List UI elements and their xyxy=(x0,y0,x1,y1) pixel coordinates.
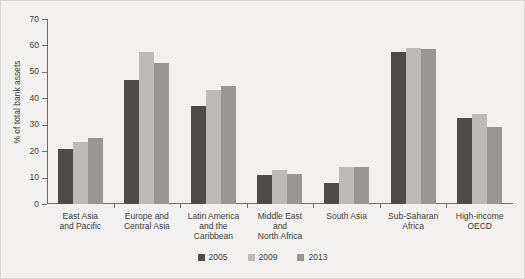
x-axis-category-label-line: and Pacific xyxy=(42,221,118,231)
x-axis-category-label-line: Sub-Saharan xyxy=(375,211,451,221)
plot-area xyxy=(47,19,513,204)
bar-group xyxy=(47,19,114,204)
x-axis-category-label-line: Middle East xyxy=(242,211,318,221)
legend-label: 2013 xyxy=(308,253,327,262)
bar-2005-latin-america xyxy=(191,106,206,204)
bar-group-bars xyxy=(247,19,314,204)
bar-2009-high-income xyxy=(472,114,487,204)
y-axis-tick-label: 50 xyxy=(11,67,39,76)
bar-2013-south-asia xyxy=(354,167,369,204)
x-axis-category-label-line: East Asia xyxy=(42,211,118,221)
y-axis-tick-label: 30 xyxy=(11,120,39,129)
bar-2013-sub-saharan xyxy=(421,49,436,204)
x-axis-category-label-line: High-income xyxy=(442,211,518,221)
bar-2009-sub-saharan xyxy=(406,48,421,204)
bar-group-bars xyxy=(114,19,181,204)
bar-group-bars xyxy=(313,19,380,204)
y-axis-tick-label: 10 xyxy=(11,173,39,182)
x-axis-category-label-line: Africa xyxy=(375,221,451,231)
x-axis-category-label-line: South Asia xyxy=(309,211,385,221)
x-axis-category-label-line: Latin America xyxy=(175,211,251,221)
bar-group xyxy=(380,19,447,204)
x-axis-category-label: South Asia xyxy=(309,211,385,221)
legend-item-2009[interactable]: 2009 xyxy=(248,253,278,262)
x-axis-category-label-line: and the xyxy=(175,221,251,231)
bar-2013-east-asia xyxy=(88,138,103,204)
x-axis-tick-mark xyxy=(380,204,381,208)
bar-2005-sub-saharan xyxy=(391,52,406,204)
x-axis-tick-mark xyxy=(114,204,115,208)
bar-group xyxy=(446,19,513,204)
bar-2013-high-income xyxy=(487,127,502,204)
bar-group-bars xyxy=(380,19,447,204)
x-axis-category-label: Europe andCentral Asia xyxy=(109,211,185,231)
x-axis-tick-mark xyxy=(446,204,447,208)
y-axis-tick-label: 70 xyxy=(11,15,39,24)
x-axis-category-label: East Asiaand Pacific xyxy=(42,211,118,231)
bar-2009-europe-and xyxy=(139,52,154,204)
bar-2013-europe-and xyxy=(154,63,169,204)
y-axis-tick-mark xyxy=(42,204,47,205)
x-axis-tick-mark xyxy=(313,204,314,208)
legend-swatch-icon xyxy=(297,254,304,261)
x-axis-category-label: Middle EastandNorth Africa xyxy=(242,211,318,241)
legend-swatch-icon xyxy=(248,254,255,261)
bar-2009-south-asia xyxy=(339,167,354,204)
bar-group xyxy=(247,19,314,204)
bar-group-bars xyxy=(47,19,114,204)
y-axis-tick-label: 40 xyxy=(11,94,39,103)
chart-legend: 200520092013 xyxy=(1,253,524,262)
x-axis-category-label-line: North Africa xyxy=(242,231,318,241)
x-axis-category-label-line: Caribbean xyxy=(175,231,251,241)
x-axis-tick-mark xyxy=(180,204,181,208)
legend-item-2005[interactable]: 2005 xyxy=(198,253,228,262)
bar-2013-middle-east xyxy=(287,174,302,204)
legend-swatch-icon xyxy=(198,254,205,261)
bar-2009-middle-east xyxy=(272,170,287,204)
y-axis-tick-label: 60 xyxy=(11,41,39,50)
bar-2013-latin-america xyxy=(221,86,236,204)
bar-2009-east-asia xyxy=(73,142,88,204)
bar-2005-middle-east xyxy=(257,175,272,204)
bar-group xyxy=(114,19,181,204)
x-axis-category-label-line: Central Asia xyxy=(109,221,185,231)
bar-group-bars xyxy=(180,19,247,204)
bar-group xyxy=(180,19,247,204)
x-axis-category-label-line: OECD xyxy=(442,221,518,231)
y-axis-tick-label: 20 xyxy=(11,147,39,156)
legend-label: 2005 xyxy=(209,253,228,262)
bar-group xyxy=(313,19,380,204)
bar-2005-europe-and xyxy=(124,80,139,204)
legend-item-2013[interactable]: 2013 xyxy=(297,253,327,262)
x-axis-category-label-line: and xyxy=(242,221,318,231)
bar-group-bars xyxy=(446,19,513,204)
y-axis-tick-label: 0 xyxy=(11,200,39,209)
bar-chart-figure: % of total bank assets 010203040506070 E… xyxy=(0,0,525,279)
bar-2005-east-asia xyxy=(58,149,73,204)
bar-2005-south-asia xyxy=(324,183,339,204)
x-axis-category-label: Latin Americaand theCaribbean xyxy=(175,211,251,241)
legend-label: 2009 xyxy=(259,253,278,262)
x-axis-category-label: Sub-SaharanAfrica xyxy=(375,211,451,231)
x-axis-tick-mark xyxy=(247,204,248,208)
bar-2005-high-income xyxy=(457,118,472,204)
x-axis-category-label-line: Europe and xyxy=(109,211,185,221)
bar-2009-latin-america xyxy=(206,90,221,204)
x-axis-category-label: High-incomeOECD xyxy=(442,211,518,231)
